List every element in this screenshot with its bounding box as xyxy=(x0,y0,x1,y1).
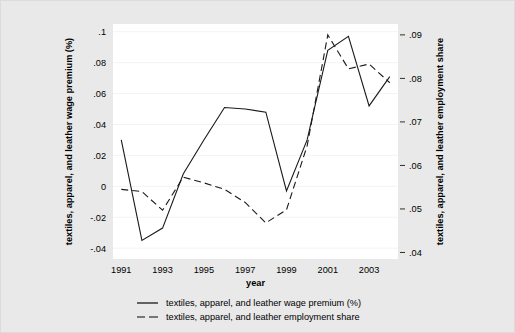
y2-axis-title: textiles, apparel, and leather employmen… xyxy=(435,38,445,245)
x-axis-tick-label-2: 1995 xyxy=(194,265,214,275)
x-axis-tick-label-4: 1999 xyxy=(276,265,296,275)
legend-label-0: textiles, apparel, and leather wage prem… xyxy=(166,298,361,308)
y2-axis-tick-label-2: .06 xyxy=(409,161,422,171)
y2-axis-tick-label-5: .09 xyxy=(409,30,422,40)
y-axis-title: textiles, apparel, and leather wage prem… xyxy=(64,38,74,245)
x-axis-tick-label-3: 1997 xyxy=(235,265,255,275)
y-axis-tick-label-2: 0 xyxy=(101,182,106,192)
y2-axis-tick-label-4: .08 xyxy=(409,74,422,84)
y-axis-tick-label-4: .04 xyxy=(93,120,106,130)
y-axis-tick-label-3: .02 xyxy=(93,151,106,161)
y-axis-tick-label-7: .1 xyxy=(98,27,106,37)
legend-label-1: textiles, apparel, and leather employmen… xyxy=(166,312,360,322)
y-axis-tick-label-0: -.04 xyxy=(90,244,106,254)
x-axis-tick-label-0: 1991 xyxy=(111,265,131,275)
y-axis-tick-label-6: .08 xyxy=(93,58,106,68)
x-axis-tick-label-5: 2001 xyxy=(318,265,338,275)
x-axis-tick-label-6: 2003 xyxy=(359,265,379,275)
x-axis-tick-label-1: 1993 xyxy=(152,265,172,275)
chart-figure: -.04-.020.02.04.06.08.1.04.05.06.07.08.0… xyxy=(0,0,515,333)
y2-axis-tick-label-3: .07 xyxy=(409,117,422,127)
y2-axis-tick-label-0: .04 xyxy=(409,248,422,258)
y2-axis-tick-label-1: .05 xyxy=(409,204,422,214)
x-axis-title: year xyxy=(246,278,265,288)
y-axis-tick-label-5: .06 xyxy=(93,89,106,99)
y-axis-tick-label-1: -.02 xyxy=(90,213,106,223)
line-chart: -.04-.020.02.04.06.08.1.04.05.06.07.08.0… xyxy=(0,0,515,333)
